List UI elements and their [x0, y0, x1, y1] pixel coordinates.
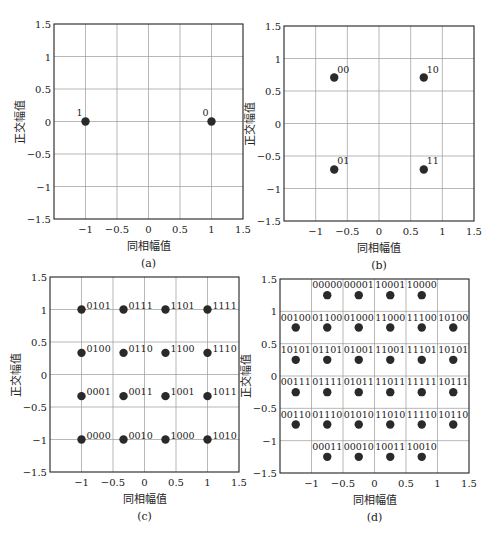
x-tick-label: −1	[308, 226, 323, 237]
y-tick-label: 1	[275, 54, 281, 65]
constellation-point	[323, 323, 331, 331]
point-label: 10010	[407, 441, 437, 452]
constellation-point	[355, 453, 363, 461]
point-label: 11100	[407, 312, 437, 323]
x-tick-label: 1	[204, 477, 210, 488]
point-label: 01100	[312, 312, 342, 323]
y-tick-label: −1.5	[253, 468, 277, 479]
x-tick-label: −1	[304, 478, 319, 489]
point-label: 00111	[281, 376, 311, 387]
y-tick-label: 1.5	[261, 274, 277, 285]
y-tick-label: −1	[266, 184, 281, 195]
constellation-point	[292, 388, 300, 396]
y-tick-label: −0.5	[253, 403, 277, 414]
y-tick-label: 1	[45, 52, 51, 63]
y-tick-label: 0	[45, 117, 51, 128]
point-label: 01001	[344, 344, 374, 355]
point-label: 01110	[312, 409, 342, 420]
x-tick-label: 0.5	[172, 224, 188, 235]
constellation-point	[420, 165, 428, 173]
constellation-point	[420, 73, 428, 81]
constellation-point	[418, 356, 426, 364]
constellation-point	[355, 388, 363, 396]
point-label: 10011	[375, 441, 405, 452]
point-label: 10100	[438, 312, 468, 323]
point-label: 01011	[344, 376, 374, 387]
point-label: 00110	[281, 409, 311, 420]
point-label: 11101	[407, 344, 437, 355]
constellation-point	[330, 73, 338, 81]
y-tick-label: 1.5	[265, 21, 281, 32]
panel-c: −1−0.500.511.5−1.5−1−0.500.511.5同相幅值正交幅值…	[9, 272, 247, 523]
constellation-point	[203, 435, 211, 443]
constellation-point	[355, 291, 363, 299]
point-label: 0100	[87, 343, 111, 354]
point-label: 11110	[407, 409, 437, 420]
constellation-point	[203, 392, 211, 400]
x-tick-label: −1	[74, 477, 89, 488]
panel-caption: (c)	[137, 510, 152, 523]
point-label: 10000	[407, 279, 437, 290]
panel-a: −1−0.500.511.5−1.5−1−0.500.511.5同相幅值正交幅值…	[13, 19, 251, 270]
point-label: 00010	[344, 441, 374, 452]
point-label: 10	[427, 64, 439, 75]
x-tick-label: −0.5	[331, 478, 355, 489]
constellation-point	[418, 420, 426, 428]
y-tick-label: 0	[41, 370, 47, 381]
point-label: 11111	[407, 376, 437, 387]
point-label: 11011	[375, 376, 405, 387]
constellation-point	[161, 349, 169, 357]
point-label: 00001	[344, 279, 374, 290]
constellation-point	[119, 435, 127, 443]
point-label: 0110	[129, 343, 153, 354]
panel-b: −1−0.500.511.5−1.5−1−0.500.511.5同相幅值正交幅值…	[243, 21, 482, 272]
y-tick-label: −0.5	[257, 151, 281, 162]
y-tick-label: 0.5	[265, 86, 281, 97]
constellation-point	[119, 349, 127, 357]
constellation-point	[323, 356, 331, 364]
constellation-point	[449, 420, 457, 428]
constellation-point	[418, 388, 426, 396]
constellation-point	[418, 453, 426, 461]
y-tick-label: −0.5	[23, 402, 47, 413]
y-axis-label: 正交幅值	[239, 354, 253, 398]
constellation-point	[161, 392, 169, 400]
constellation-point	[292, 356, 300, 364]
constellation-point	[119, 392, 127, 400]
point-label: 1001	[170, 386, 194, 397]
x-tick-label: −0.5	[101, 477, 125, 488]
point-label: 10101	[281, 344, 311, 355]
y-axis-label: 正交幅值	[9, 353, 23, 397]
point-label: 1110	[213, 343, 237, 354]
y-tick-label: 0.5	[261, 339, 277, 350]
y-tick-label: −1	[262, 436, 277, 447]
y-tick-label: 1	[271, 306, 277, 317]
constellation-point	[355, 356, 363, 364]
point-label: 00100	[281, 312, 311, 323]
constellation-point	[355, 323, 363, 331]
point-label: 1011	[213, 386, 237, 397]
x-axis-label: 同相幅值	[123, 493, 167, 506]
point-label: 00011	[312, 441, 342, 452]
x-axis-label: 同相幅值	[353, 494, 397, 507]
point-label: 0010	[129, 430, 153, 441]
x-tick-label: 1	[434, 478, 440, 489]
constellation-point	[386, 291, 394, 299]
point-label: 0101	[87, 300, 111, 311]
point-label: 10111	[438, 376, 468, 387]
x-tick-label: −0.5	[105, 224, 129, 235]
constellation-point	[77, 392, 85, 400]
point-label: 10001	[375, 279, 405, 290]
constellation-point	[203, 349, 211, 357]
constellation-point	[386, 388, 394, 396]
point-label: 01	[337, 155, 349, 166]
x-axis-label: 同相幅值	[357, 242, 401, 255]
panel-d: −1−0.500.511.5−1.5−1−0.500.511.5同相幅值正交幅值…	[239, 274, 477, 524]
y-tick-label: −1.5	[27, 214, 51, 225]
constellation-point	[207, 117, 215, 125]
constellation-point	[418, 291, 426, 299]
constellation-point	[161, 435, 169, 443]
y-tick-label: 0.5	[35, 84, 51, 95]
point-label: 01010	[344, 409, 374, 420]
point-label: 0	[202, 107, 208, 118]
